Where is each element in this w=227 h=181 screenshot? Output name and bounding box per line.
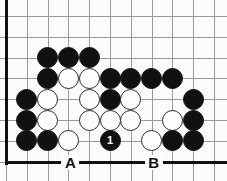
board-point-label-b[interactable]: B — [145, 155, 163, 170]
stone-black[interactable] — [100, 68, 121, 89]
grid-line-vertical — [214, 0, 215, 181]
board-edge-bottom — [5, 161, 227, 164]
stone-black[interactable] — [183, 130, 204, 151]
stone-white[interactable] — [141, 130, 162, 151]
stone-black[interactable] — [162, 68, 183, 89]
stone-black[interactable] — [16, 130, 37, 151]
stone-black[interactable] — [58, 47, 79, 68]
stone-black[interactable] — [16, 110, 37, 131]
stone-black[interactable] — [37, 47, 58, 68]
stone-black[interactable] — [79, 47, 100, 68]
stone-white[interactable] — [162, 110, 183, 131]
stone-white[interactable] — [37, 89, 58, 110]
stone-white[interactable] — [79, 68, 100, 89]
grid-line-vertical — [172, 0, 173, 181]
stone-white[interactable] — [79, 110, 100, 131]
stone-black[interactable] — [162, 130, 183, 151]
stone-black[interactable] — [183, 89, 204, 110]
stone-black[interactable] — [37, 68, 58, 89]
stone-white[interactable] — [58, 68, 79, 89]
stone-black-move-1[interactable]: 1 — [100, 130, 121, 151]
stone-white[interactable] — [120, 89, 141, 110]
stone-white[interactable] — [120, 110, 141, 131]
stone-white[interactable] — [58, 130, 79, 151]
stone-black[interactable] — [120, 68, 141, 89]
stone-white[interactable] — [100, 110, 121, 131]
board-edge-left — [5, 0, 8, 165]
stone-black[interactable] — [141, 68, 162, 89]
stone-black[interactable] — [16, 89, 37, 110]
stone-black[interactable] — [183, 110, 204, 131]
stone-white[interactable] — [79, 89, 100, 110]
stone-black[interactable] — [100, 89, 121, 110]
go-board-diagram: 1AB — [0, 0, 227, 181]
stone-white[interactable] — [37, 110, 58, 131]
board-point-label-a[interactable]: A — [61, 155, 79, 170]
stone-move-number: 1 — [107, 135, 113, 146]
stone-black[interactable] — [37, 130, 58, 151]
